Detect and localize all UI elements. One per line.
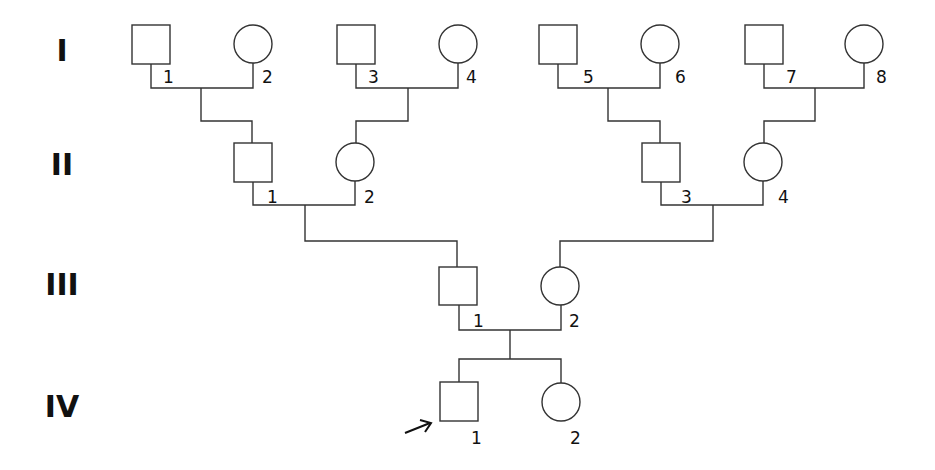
individual-II-3[interactable] xyxy=(642,143,680,182)
individual-II-2[interactable] xyxy=(336,143,374,181)
individual-label-II-1: 1 xyxy=(267,187,278,207)
individual-III-1[interactable] xyxy=(439,267,477,305)
individual-label-III-2: 2 xyxy=(569,311,580,331)
individual-label-I-3: 3 xyxy=(368,67,379,87)
individual-II-1[interactable] xyxy=(234,143,272,182)
individual-label-I-1: 1 xyxy=(163,67,174,87)
individual-I-8[interactable] xyxy=(845,25,883,63)
individual-label-III-1: 1 xyxy=(473,311,484,331)
generation-I: 1 2 3 4 5 6 7 8 xyxy=(132,25,887,87)
descent-line-II4 xyxy=(764,88,815,143)
generation-labels: I II III IV xyxy=(45,33,80,424)
generation-label-IV: IV xyxy=(45,389,80,424)
individual-I-5[interactable] xyxy=(539,25,577,64)
descent-line-III1 xyxy=(305,205,457,267)
generation-label-II: II xyxy=(51,147,73,182)
generation-IV: 1 2 xyxy=(440,382,581,448)
generation-II: 1 2 3 4 xyxy=(234,143,789,207)
mating-line-I7-I8 xyxy=(764,63,864,88)
descent-line-II2 xyxy=(356,88,408,143)
individual-label-I-5: 5 xyxy=(583,67,594,87)
individual-label-I-8: 8 xyxy=(876,67,887,87)
individual-label-IV-2: 2 xyxy=(570,428,581,448)
individual-I-7[interactable] xyxy=(745,25,783,64)
mating-line-II3-II4 xyxy=(661,181,763,205)
generation-label-I: I xyxy=(56,33,67,68)
individual-label-II-4: 4 xyxy=(778,187,789,207)
individual-label-I-6: 6 xyxy=(675,67,686,87)
proband-arrow-icon xyxy=(405,420,431,433)
individual-III-2[interactable] xyxy=(541,267,579,305)
descent-line-III2 xyxy=(560,205,713,267)
individual-I-6[interactable] xyxy=(641,25,679,63)
individual-IV-2[interactable] xyxy=(542,383,580,421)
descent-line-II3 xyxy=(608,88,660,143)
individual-label-I-7: 7 xyxy=(786,67,797,87)
sibship-line-IV xyxy=(459,359,561,383)
pedigree-chart: I II III IV 1 2 3 4 xyxy=(0,0,935,470)
generation-III: 1 2 xyxy=(439,267,580,331)
individual-label-I-4: 4 xyxy=(466,67,477,87)
individual-I-1[interactable] xyxy=(132,25,170,64)
generation-label-III: III xyxy=(45,267,79,302)
individual-label-I-2: 2 xyxy=(262,67,273,87)
individual-I-3[interactable] xyxy=(337,25,375,64)
individual-label-IV-1: 1 xyxy=(471,428,482,448)
individual-IV-1[interactable] xyxy=(440,382,478,421)
individual-label-II-2: 2 xyxy=(364,187,375,207)
mating-line-I5-I6 xyxy=(558,63,660,88)
individual-I-4[interactable] xyxy=(439,25,477,63)
descent-line-II1 xyxy=(201,88,252,143)
connection-lines xyxy=(151,63,864,383)
individual-II-4[interactable] xyxy=(744,143,782,181)
individual-I-2[interactable] xyxy=(234,25,272,63)
individual-label-II-3: 3 xyxy=(681,187,692,207)
